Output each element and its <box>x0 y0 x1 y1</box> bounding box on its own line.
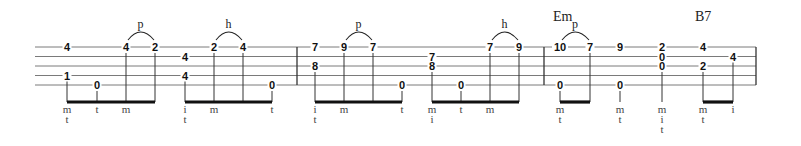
fret-number: 10 <box>554 41 566 53</box>
finger-label: i <box>731 103 734 115</box>
fret-number: 2 <box>152 41 158 53</box>
finger-label: t <box>65 113 68 125</box>
note-group: 200mit <box>658 41 667 135</box>
fret-number: 4 <box>240 41 247 53</box>
finger-label: m <box>340 103 349 115</box>
fret-number: 0 <box>617 79 623 91</box>
slur-arc <box>346 32 372 40</box>
finger-label: t <box>459 103 462 115</box>
slur-arc <box>216 32 242 40</box>
slur-arc <box>128 32 154 40</box>
fret-number: 0 <box>659 60 665 72</box>
chord-symbol: B7 <box>695 9 711 24</box>
fret-number: 0 <box>458 79 464 91</box>
note-group: p41mt0t4m2 <box>63 17 160 125</box>
finger-label: t <box>400 103 403 115</box>
fret-number: 7 <box>312 41 318 53</box>
finger-label: t <box>313 113 316 125</box>
finger-label: m <box>122 103 131 115</box>
finger-label: t <box>270 103 273 115</box>
fret-number: 0 <box>94 79 100 91</box>
fret-number: 4 <box>700 41 707 53</box>
note-group: p100mt7 <box>552 17 595 125</box>
finger-label: m <box>486 103 495 115</box>
pull-off-label: p <box>572 17 578 31</box>
fret-number: 7 <box>487 41 493 53</box>
fret-number: 7 <box>587 41 593 53</box>
fret-number: 7 <box>370 41 376 53</box>
finger-label: t <box>95 103 98 115</box>
fret-number: 2 <box>700 60 706 72</box>
finger-label: t <box>618 113 621 125</box>
hammer-on-label: h <box>502 17 508 31</box>
finger-label: m <box>210 103 219 115</box>
finger-label: t <box>701 113 704 125</box>
staff-lines <box>35 47 756 85</box>
fret-number: 4 <box>730 51 737 63</box>
finger-label: t <box>558 113 561 125</box>
pull-off-label: p <box>356 17 362 31</box>
fret-number: 4 <box>64 41 71 53</box>
fret-number: 2 <box>211 41 217 53</box>
chord-symbol: Em <box>553 9 573 24</box>
fret-number: 0 <box>399 79 405 91</box>
fret-number: 9 <box>617 41 623 53</box>
note-group: h78mi0t7m9 <box>428 17 524 125</box>
fret-number: 4 <box>182 51 189 63</box>
hammer-on-label: h <box>226 17 232 31</box>
fret-number: 0 <box>269 79 275 91</box>
slur-arc <box>492 32 518 40</box>
fret-number: 4 <box>182 70 189 82</box>
fret-number: 4 <box>123 41 130 53</box>
note-group: 90mt <box>616 41 625 125</box>
fret-number: 9 <box>516 41 522 53</box>
fret-number: 8 <box>429 60 435 72</box>
slur-arc <box>562 32 589 40</box>
finger-label: t <box>660 123 663 135</box>
pull-off-label: p <box>138 17 144 31</box>
finger-label: t <box>183 113 186 125</box>
fret-number: 9 <box>341 41 347 53</box>
tablature-staff: EmB7 p41mt0t4m2h44it2m40tp78it9m70th78mi… <box>0 0 801 146</box>
fret-number: 8 <box>312 60 318 72</box>
note-group: h44it2m40t <box>181 17 277 125</box>
note-group: 42mt4i <box>699 41 738 125</box>
fret-number: 0 <box>557 79 563 91</box>
fret-number: 1 <box>64 70 70 82</box>
note-group: p78it9m70t <box>311 17 407 125</box>
finger-label: i <box>430 113 433 125</box>
